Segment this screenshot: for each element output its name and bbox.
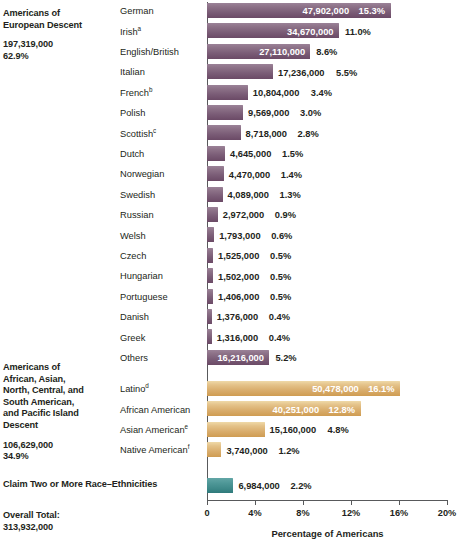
category-label: Asian Americane [120, 425, 206, 435]
bar-value-label: 16,216,000 [217, 353, 264, 363]
footnote-marker: f [188, 443, 190, 450]
category-label: Dutch [120, 149, 206, 159]
bar-value-label: 1,376,000 [217, 312, 258, 322]
bar-value-label: 50,478,000 [312, 384, 359, 394]
group-title-line: Claim Two or More Race–Ethnicities [3, 479, 203, 491]
x-tick-label: 8% [283, 508, 323, 518]
bar-percent-label: 1.2% [278, 446, 299, 456]
bar-value-label: 1,793,000 [219, 231, 260, 241]
category-label: Polish [120, 108, 206, 118]
bar-value-label: 34,670,000 [287, 27, 334, 37]
bar [207, 422, 265, 437]
bar-percent-label: 3.0% [300, 108, 321, 118]
category-label: Norwegian [120, 169, 206, 179]
bar-value-label: 9,569,000 [248, 108, 289, 118]
category-label: Frenchb [120, 88, 206, 98]
bar-value-label: 15,160,000 [270, 425, 317, 435]
category-label: Welsh [120, 231, 206, 241]
bar [207, 166, 224, 181]
bar [207, 207, 218, 222]
x-tick-label: 16% [379, 508, 419, 518]
x-tick [207, 500, 208, 505]
bar-value-label: 47,902,000 [303, 6, 350, 16]
footnote-marker: b [149, 86, 153, 93]
bar-value-label: 27,110,000 [259, 47, 305, 57]
category-label: Latinod [120, 384, 206, 394]
category-label: Swedish [120, 190, 206, 200]
group-total-african-asian: 106,629,000 34.9% [3, 440, 115, 463]
category-label: Scottishc [120, 129, 206, 139]
overall-total-caption: Overall Total: [3, 510, 123, 522]
bar-percent-label: 0.5% [270, 292, 291, 302]
bar-percent-label: 1.3% [280, 190, 301, 200]
bar [207, 329, 212, 344]
x-tick [399, 500, 400, 505]
bar-percent-label: 0.5% [270, 251, 291, 261]
x-axis-line [207, 500, 448, 501]
bar-value-label: 2,972,000 [223, 210, 264, 220]
x-tick [255, 500, 256, 505]
group-total-european: 197,319,000 62.9% [3, 39, 115, 62]
bar-value-label: 1,525,000 [218, 251, 259, 261]
overall-total-value: 313,932,000 [3, 522, 123, 534]
bar-percent-label: 3.4% [311, 88, 332, 98]
group-title-line: European Descent [3, 20, 115, 32]
bar [207, 309, 212, 324]
bar-value-label: 4,089,000 [228, 190, 269, 200]
bar-value-label: 4,645,000 [230, 149, 271, 159]
category-label: German [120, 6, 206, 16]
bar [207, 478, 233, 493]
bar [207, 268, 213, 283]
bar-value-label: 1,406,000 [218, 292, 259, 302]
bar-value-label: 4,470,000 [229, 170, 270, 180]
bar-percent-label: 2.2% [290, 481, 311, 491]
group-total-value: 106,629,000 [3, 440, 115, 452]
group-label-overall-total: Overall Total: 313,932,000 [3, 510, 123, 533]
category-label: Portuguese [120, 292, 206, 302]
bar-value-label: 6,984,000 [238, 481, 279, 491]
group-title-line: Descent [3, 420, 115, 432]
category-label: Danish [120, 312, 206, 322]
x-tick-label: 12% [331, 508, 371, 518]
group-label-european: Americans of European Descent 197,319,00… [3, 8, 115, 62]
bar [207, 289, 213, 304]
category-label: Russian [120, 210, 206, 220]
bar [207, 146, 225, 161]
group-title-line: Americans of [3, 362, 115, 374]
group-title-line: North, Central, and [3, 385, 115, 397]
category-label: Czech [120, 251, 206, 261]
bar-percent-label: 0.4% [269, 312, 290, 322]
x-tick [447, 500, 448, 505]
bar-value-label: 40,251,000 [273, 405, 320, 415]
group-title-line: Americans of [3, 8, 115, 20]
x-tick [303, 500, 304, 505]
bar-percent-label: 12.8% [329, 405, 355, 415]
bar-percent-label: 2.8% [298, 129, 319, 139]
bar-percent-label: 1.4% [281, 170, 302, 180]
group-label-two-or-more: Claim Two or More Race–Ethnicities [3, 479, 203, 491]
bar-percent-label: 0.5% [270, 272, 291, 282]
category-label: English/British [120, 47, 206, 57]
bar [207, 125, 241, 140]
footnote-marker: a [138, 25, 142, 32]
group-total-value: 197,319,000 [3, 39, 115, 51]
group-title-line: South American, [3, 397, 115, 409]
bar-value-label: 3,740,000 [226, 446, 267, 456]
category-label: Native Americanf [120, 445, 206, 455]
category-label: Hungarian [120, 271, 206, 281]
bar [207, 442, 221, 457]
x-tick-label: 0 [187, 508, 227, 518]
bar-value-label: 1,316,000 [217, 333, 258, 343]
footnote-marker: e [185, 423, 189, 430]
bar-value-label: 8,718,000 [246, 129, 287, 139]
group-label-african-asian: Americans of African, Asian, North, Cent… [3, 362, 115, 463]
bar-percent-label: 11.0% [345, 27, 371, 37]
bar-percent-label: 15.3% [359, 6, 385, 16]
category-label: Others [120, 353, 206, 363]
footnote-marker: d [145, 382, 149, 389]
bar-percent-label: 0.4% [269, 333, 290, 343]
bar-percent-label: 8.6% [316, 47, 337, 57]
x-tick-label: 4% [235, 508, 275, 518]
ethnicity-bar-chart: Americans of European Descent 197,319,00… [0, 0, 463, 544]
bar-percent-label: 16.1% [368, 384, 394, 394]
